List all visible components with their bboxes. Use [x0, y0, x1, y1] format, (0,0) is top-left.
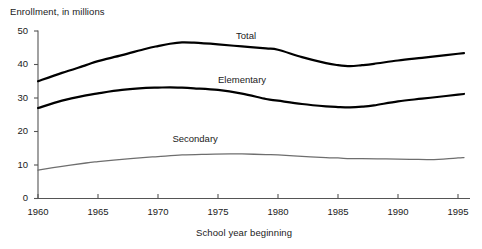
y-tick-label: 10 — [6, 159, 28, 170]
x-tick-label: 1990 — [378, 206, 418, 217]
x-tick-label: 1960 — [18, 206, 58, 217]
enrollment-line-chart: Enrollment, in millions 01020304050 1960… — [0, 0, 482, 249]
series-label-secondary: Secondary — [172, 133, 217, 144]
y-tick-label: 40 — [6, 58, 28, 69]
x-tick-label: 1980 — [258, 206, 298, 217]
series-label-total: Total — [236, 30, 256, 41]
y-tick-label: 0 — [6, 192, 28, 203]
x-tick-label: 1975 — [198, 206, 238, 217]
y-tick-label: 30 — [6, 92, 28, 103]
series-line-elementary — [38, 87, 464, 108]
x-tick-label: 1970 — [138, 206, 178, 217]
series-label-elementary: Elementary — [218, 74, 266, 85]
y-tick-label: 50 — [6, 25, 28, 36]
x-tick-label: 1995 — [438, 206, 478, 217]
x-tick-label: 1965 — [78, 206, 118, 217]
axis-lines — [38, 31, 470, 199]
tick-marks — [34, 31, 458, 199]
series-line-secondary — [38, 154, 464, 170]
x-tick-label: 1985 — [318, 206, 358, 217]
y-tick-label: 20 — [6, 125, 28, 136]
x-axis-title: School year beginning — [196, 227, 292, 238]
series-paths — [38, 42, 464, 170]
